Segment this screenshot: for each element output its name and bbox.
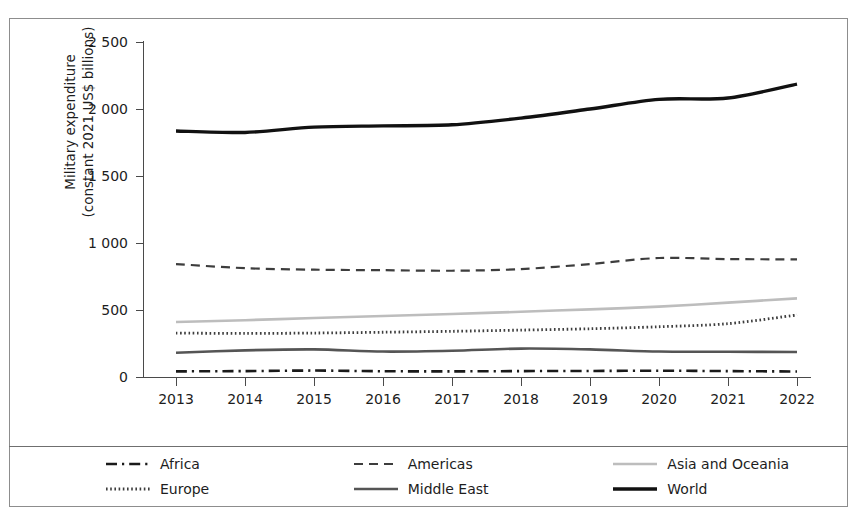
legend-item-asia-and-oceania[interactable]: Asia and Oceania — [568, 456, 848, 472]
legend-item-world[interactable]: World — [568, 481, 848, 497]
legend-item-middle-east[interactable]: Middle East — [289, 481, 569, 497]
legend-label: Americas — [408, 456, 473, 472]
series-line-middle-east — [176, 349, 797, 353]
legend-label: Asia and Oceania — [667, 456, 789, 472]
legend-item-africa[interactable]: Africa — [9, 456, 289, 472]
legend-label: Europe — [160, 481, 209, 497]
legend-item-americas[interactable]: Americas — [289, 456, 569, 472]
gray-solid-line-sample — [353, 483, 399, 495]
series-line-world — [176, 84, 797, 132]
legend-label: Middle East — [408, 481, 489, 497]
chart-plot-lines — [0, 0, 858, 519]
figure-container: Military expenditure (constant 2021 US$ … — [0, 0, 858, 519]
dashdot-line-sample — [105, 458, 151, 470]
series-line-americas — [176, 258, 797, 271]
chart-legend: AfricaAmericasAsia and OceaniaEuropeMidd… — [9, 447, 848, 506]
legend-item-europe[interactable]: Europe — [9, 481, 289, 497]
bold-solid-line-sample — [612, 483, 658, 495]
series-line-africa — [176, 371, 797, 372]
light-solid-line-sample — [612, 458, 658, 470]
dotted-line-sample — [105, 483, 151, 495]
legend-label: Africa — [160, 456, 200, 472]
dashed-line-sample — [353, 458, 399, 470]
legend-label: World — [667, 481, 707, 497]
series-line-europe — [176, 315, 797, 333]
series-line-asia-and-oceania — [176, 298, 797, 322]
